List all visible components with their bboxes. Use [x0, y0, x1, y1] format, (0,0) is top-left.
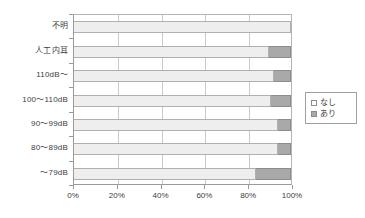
legend-swatch-ari-icon	[311, 111, 317, 117]
x-axis-label: 100%	[272, 191, 312, 201]
x-axis-label: 60%	[184, 191, 224, 201]
y-axis-tick	[69, 136, 73, 137]
x-axis-tick	[204, 185, 205, 189]
bar-row	[74, 95, 291, 107]
bar-segment-nashi	[74, 143, 278, 155]
x-axis-tick	[117, 185, 118, 189]
legend-item: なし	[311, 97, 352, 108]
bar-segment-nashi	[74, 119, 278, 131]
x-axis-tick	[161, 185, 162, 189]
bar-row	[74, 143, 291, 155]
bars-layer	[74, 15, 291, 184]
y-axis-label: 人工内耳	[0, 46, 68, 56]
chart-legend: なしあり	[305, 92, 357, 124]
bar-row	[74, 46, 291, 58]
y-axis-tick	[69, 87, 73, 88]
y-axis-tick	[69, 38, 73, 39]
y-axis-tick	[69, 63, 73, 64]
y-axis-tick	[69, 161, 73, 162]
bar-segment-nashi	[74, 21, 291, 33]
legend-label: あり	[320, 108, 336, 119]
y-axis-label: 不明	[0, 21, 68, 31]
y-axis-label: 110dB～	[0, 70, 68, 80]
x-axis-label: 40%	[141, 191, 181, 201]
bar-segment-nashi	[74, 70, 274, 82]
bar-segment-ari	[271, 95, 291, 107]
legend-swatch-nashi-icon	[311, 100, 317, 106]
y-axis-tick	[69, 14, 73, 15]
bar-segment-nashi	[74, 168, 256, 180]
bar-segment-ari	[278, 143, 291, 155]
plot-area	[73, 14, 292, 185]
stacked-bar-chart: 不明人工内耳110dB～100～110dB90～99dB80～89dB～79dB…	[0, 0, 365, 218]
bar-segment-nashi	[74, 46, 269, 58]
bar-segment-ari	[278, 119, 291, 131]
bar-row	[74, 119, 291, 131]
x-axis-label: 80%	[228, 191, 268, 201]
x-axis-tick	[292, 185, 293, 189]
y-axis-label: 90～99dB	[0, 119, 68, 129]
x-axis-label: 20%	[97, 191, 137, 201]
y-axis-label: ～79dB	[0, 168, 68, 178]
bar-row	[74, 21, 291, 33]
legend-item: あり	[311, 108, 352, 119]
bar-segment-ari	[269, 46, 291, 58]
bar-segment-ari	[256, 168, 291, 180]
bar-segment-nashi	[74, 95, 271, 107]
y-axis-tick	[69, 112, 73, 113]
x-axis-label: 0%	[53, 191, 93, 201]
bar-segment-ari	[274, 70, 291, 82]
x-axis-tick	[73, 185, 74, 189]
bar-row	[74, 70, 291, 82]
y-axis-label: 100～110dB	[0, 95, 68, 105]
x-axis-tick	[248, 185, 249, 189]
y-axis-label: 80～89dB	[0, 143, 68, 153]
legend-label: なし	[320, 97, 336, 108]
bar-row	[74, 168, 291, 180]
